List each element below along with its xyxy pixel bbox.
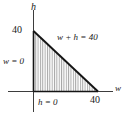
constraint-label-w-equals-0: w = 0 — [3, 57, 24, 66]
constraint-label-h-equals-0: h = 0 — [38, 98, 58, 107]
y-axis-label: h — [31, 2, 36, 12]
x-axis-tick-label-40: 40 — [90, 95, 100, 105]
feasible-region-figure: h w 40 40 w = 0 h = 0 w + h = 40 — [0, 0, 129, 123]
y-axis-tick-label-40: 40 — [12, 25, 22, 35]
x-axis-label: w — [115, 84, 121, 93]
constraint-label-w-plus-h-equals-40: w + h = 40 — [57, 33, 98, 42]
